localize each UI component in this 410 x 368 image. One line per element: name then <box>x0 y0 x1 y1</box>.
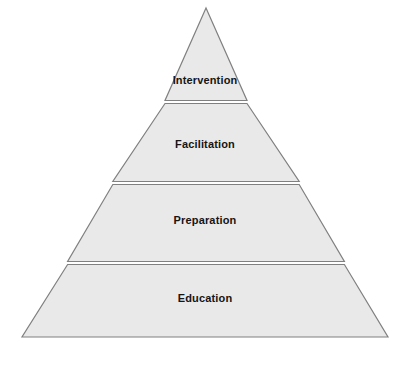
pyramid-tier-preparation-shape[interactable] <box>68 185 345 262</box>
pyramid-diagram: Intervention Facilitation Preparation Ed… <box>0 0 410 368</box>
pyramid-tier-intervention-shape[interactable] <box>165 8 247 101</box>
pyramid-shape-group <box>0 0 410 368</box>
pyramid-tier-facilitation-shape[interactable] <box>113 104 299 182</box>
pyramid-tier-education-shape[interactable] <box>22 265 388 338</box>
